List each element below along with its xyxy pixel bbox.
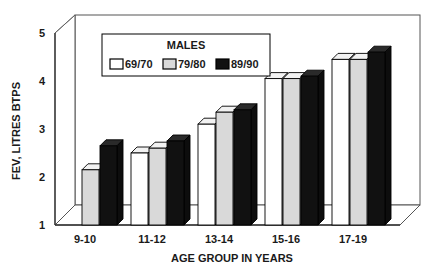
legend-title: MALES xyxy=(167,39,206,51)
bar-front-face xyxy=(131,153,148,225)
bar-9-10-89-90 xyxy=(100,140,123,225)
left-wall xyxy=(55,15,75,225)
y-axis-title: FEV, LITRES BTPS xyxy=(10,82,22,180)
bar-front-face xyxy=(332,59,349,225)
legend-swatch-89-90 xyxy=(216,59,229,69)
x-axis-ticks: 9-10 11-12 13-14 15-16 17-19 xyxy=(74,233,367,245)
bar-front-face xyxy=(234,110,251,225)
bar-side-face xyxy=(251,104,257,225)
y-tick-label-3: 3 xyxy=(39,123,45,135)
x-tick-label-4: 17-19 xyxy=(339,233,367,245)
x-tick-label-1: 11-12 xyxy=(138,233,166,245)
bar-11-12-89-90 xyxy=(167,135,190,225)
bar-front-face xyxy=(368,52,385,225)
bar-side-face xyxy=(184,135,190,225)
bar-front-face xyxy=(350,59,367,225)
bar-chart-svg: 5 4 3 2 1 FEV, LITRES BTPS 9-10 11-12 13… xyxy=(0,0,443,271)
x-axis-title: AGE GROUP IN YEARS xyxy=(171,252,293,264)
bar-front-face xyxy=(283,79,300,225)
bar-15-16-89-90 xyxy=(301,70,324,225)
bar-front-face xyxy=(301,76,318,225)
y-tick-label-5: 5 xyxy=(39,27,45,39)
bar-front-face xyxy=(82,170,99,225)
y-tick-label-4: 4 xyxy=(39,75,46,87)
legend-swatch-79-80 xyxy=(163,59,176,69)
legend-label-89-90: 89/90 xyxy=(231,58,259,70)
bar-front-face xyxy=(198,124,215,225)
bar-17-19-89-90 xyxy=(368,46,391,225)
y-tick-label-2: 2 xyxy=(39,171,45,183)
x-tick-label-0: 9-10 xyxy=(74,233,96,245)
bar-13-14-89-90 xyxy=(234,104,257,225)
legend: MALES 69/70 79/80 89/90 xyxy=(102,34,270,76)
bar-side-face xyxy=(117,140,123,225)
bar-front-face xyxy=(149,148,166,225)
bar-front-face xyxy=(265,79,282,225)
y-tick-label-1: 1 xyxy=(39,219,45,231)
bar-side-face xyxy=(385,46,391,225)
legend-label-79-80: 79/80 xyxy=(178,58,206,70)
chart-container: 5 4 3 2 1 FEV, LITRES BTPS 9-10 11-12 13… xyxy=(0,0,443,271)
legend-swatch-69-70 xyxy=(110,59,123,69)
bar-front-face xyxy=(216,112,233,225)
bar-front-face xyxy=(167,141,184,225)
x-tick-label-3: 15-16 xyxy=(272,233,300,245)
x-tick-label-2: 13-14 xyxy=(205,233,234,245)
bar-front-face xyxy=(100,146,117,225)
bar-side-face xyxy=(318,70,324,225)
legend-label-69-70: 69/70 xyxy=(125,58,153,70)
